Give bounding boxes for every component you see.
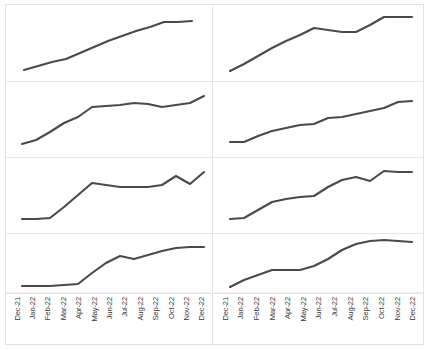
x-tick-label: Dec-21: [220, 297, 229, 321]
axis-baseline-left: [6, 292, 212, 293]
x-tick-right-4: Apr-22: [279, 295, 295, 347]
x-tick-right-10: Oct-22: [373, 295, 389, 347]
x-tick-label: Apr-22: [283, 297, 292, 319]
x-tick-label: Jul-22: [330, 297, 339, 317]
panel-7-plot: [6, 234, 212, 293]
panel-6-plot: [214, 158, 423, 233]
x-tick-label: Jan-22: [236, 297, 245, 319]
x-tick-left-2: Feb-22: [40, 295, 55, 347]
x-tick-left-0: Dec-21: [9, 295, 24, 347]
panel-2-line: [230, 17, 412, 71]
x-axis-labels-left-column: Dec-21Jan-22Feb-22Mar-22Apr-22May-22Jun-…: [9, 295, 209, 347]
panel-4-line: [230, 101, 412, 142]
grid-divider-col1-col2: [212, 4, 213, 345]
x-tick-left-10: Oct-22: [163, 295, 178, 347]
panel-6-line: [230, 171, 412, 219]
x-axis-labels-right-column: Dec-21Jan-22Feb-22Mar-22Apr-22May-22Jun-…: [217, 295, 420, 347]
x-tick-left-5: May-22: [86, 295, 101, 347]
x-tick-right-12: Dec-22: [404, 295, 420, 347]
chart-panel-1: [6, 5, 212, 81]
x-tick-label: Jun-22: [105, 297, 114, 319]
x-tick-label: Aug-22: [345, 297, 354, 321]
x-tick-label: Dec-22: [408, 297, 417, 321]
x-tick-label: Oct-22: [166, 297, 175, 319]
x-tick-left-11: Nov-22: [178, 295, 193, 347]
x-tick-right-2: Feb-22: [248, 295, 264, 347]
x-tick-label: Feb-22: [43, 297, 52, 320]
panel-2-plot: [214, 5, 423, 81]
panel-1-line: [24, 21, 192, 70]
chart-panel-5: [6, 158, 212, 233]
x-tick-right-7: Jul-22: [326, 295, 342, 347]
x-tick-right-0: Dec-21: [217, 295, 233, 347]
x-tick-label: Mar-22: [58, 297, 67, 320]
panel-1-plot: [6, 5, 212, 81]
panel-4-plot: [214, 82, 423, 157]
x-tick-right-5: May-22: [295, 295, 311, 347]
panel-3-plot: [6, 82, 212, 157]
panel-7-line: [22, 247, 204, 286]
x-tick-label: Apr-22: [74, 297, 83, 319]
x-tick-left-12: Dec-22: [194, 295, 209, 347]
x-tick-right-1: Jan-22: [233, 295, 249, 347]
x-tick-label: May-22: [298, 297, 307, 321]
axis-baseline-right: [214, 292, 423, 293]
x-tick-left-3: Mar-22: [55, 295, 70, 347]
panel-5-plot: [6, 158, 212, 233]
x-tick-label: Dec-21: [12, 297, 21, 321]
x-tick-label: Jan-22: [28, 297, 37, 319]
x-tick-label: Sep-22: [151, 297, 160, 321]
x-tick-label: Jul-22: [120, 297, 129, 317]
x-tick-label: May-22: [89, 297, 98, 321]
x-tick-label: Jun-22: [314, 297, 323, 319]
chart-panel-8: [214, 234, 423, 293]
x-tick-right-9: Sep-22: [357, 295, 373, 347]
x-tick-left-7: Jul-22: [117, 295, 132, 347]
x-tick-label: Nov-22: [392, 297, 401, 321]
grid-divider-axis-top: [5, 293, 424, 294]
panel-3-line: [22, 96, 204, 144]
chart-panel-7: [6, 234, 212, 293]
x-tick-label: Oct-22: [376, 297, 385, 319]
x-tick-left-6: Jun-22: [101, 295, 116, 347]
chart-panel-6: [214, 158, 423, 233]
x-tick-left-4: Apr-22: [71, 295, 86, 347]
x-tick-label: Nov-22: [181, 297, 190, 321]
chart-panel-3: [6, 82, 212, 157]
x-tick-right-3: Mar-22: [264, 295, 280, 347]
x-tick-label: Feb-22: [252, 297, 261, 320]
panel-5-line: [22, 172, 204, 219]
x-tick-right-8: Aug-22: [342, 295, 358, 347]
x-tick-left-9: Sep-22: [148, 295, 163, 347]
chart-panel-2: [214, 5, 423, 81]
x-tick-label: Dec-22: [197, 297, 206, 321]
x-tick-right-11: Nov-22: [389, 295, 405, 347]
x-tick-label: Aug-22: [135, 297, 144, 321]
x-tick-label: Mar-22: [267, 297, 276, 320]
x-tick-left-8: Aug-22: [132, 295, 147, 347]
x-tick-right-6: Jun-22: [311, 295, 327, 347]
chart-panel-4: [214, 82, 423, 157]
panel-8-line: [230, 240, 412, 287]
panel-8-plot: [214, 234, 423, 293]
x-tick-label: Sep-22: [361, 297, 370, 321]
small-multiples-chart-figure: Dec-21Jan-22Feb-22Mar-22Apr-22May-22Jun-…: [0, 0, 429, 349]
x-tick-left-1: Jan-22: [24, 295, 39, 347]
